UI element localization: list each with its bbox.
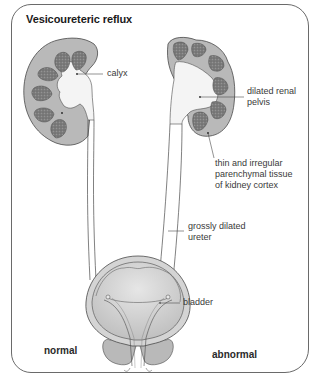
label-bladder: bladder bbox=[183, 297, 213, 308]
normal-kidney bbox=[24, 38, 98, 145]
label-abnormal: abnormal bbox=[212, 349, 257, 360]
label-line: thin and irregular bbox=[215, 158, 293, 169]
label-line: parenchymal tissue bbox=[215, 169, 293, 180]
label-line: pelvis bbox=[247, 97, 296, 108]
bladder bbox=[86, 256, 190, 371]
label-normal: normal bbox=[44, 345, 77, 356]
label-line: of kidney cortex bbox=[215, 180, 293, 191]
label-calyx: calyx bbox=[107, 68, 128, 79]
normal-ureter bbox=[88, 120, 97, 280]
label-line: grossly dilated bbox=[188, 221, 246, 232]
label-line: dilated renal bbox=[247, 86, 296, 97]
label-kidney-cortex: thin and irregular parenchymal tissue of… bbox=[215, 158, 293, 191]
abnormal-kidney bbox=[167, 37, 234, 136]
label-grossly-dilated-ureter: grossly dilated ureter bbox=[188, 221, 246, 243]
label-dilated-renal-pelvis: dilated renal pelvis bbox=[247, 86, 296, 108]
label-line: ureter bbox=[188, 232, 246, 243]
